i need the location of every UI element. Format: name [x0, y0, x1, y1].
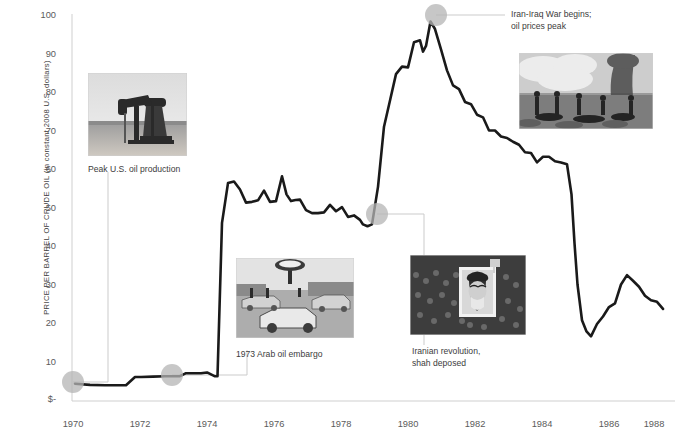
annotation-peak-us-oil-production: Peak U.S. oil production [88, 163, 238, 175]
leader-peak-us-oil-production [73, 172, 108, 382]
war-smoke-photo [519, 53, 653, 129]
marker-arab-oil-embargo[interactable] [161, 364, 183, 386]
annotation-iranian-revolution: Iranian revolution, shah deposed [412, 345, 562, 370]
iranian-crowd-khomeini-photo [410, 255, 526, 335]
oil-price-chart: PRICE PER BARREL OF CRUDE OIL (in consta… [0, 0, 679, 444]
marker-iranian-revolution[interactable] [366, 203, 388, 225]
oil-pumpjack-photo [88, 73, 187, 156]
gas-station-queue-photo [236, 258, 354, 338]
marker-iran-iraq-war[interactable] [425, 4, 447, 26]
annotation-arab-oil-embargo: 1973 Arab oil embargo [236, 348, 386, 360]
marker-peak-us-oil-production[interactable] [62, 371, 84, 393]
annotation-iran-iraq-war: Iran-Iraq War begins; oil prices peak [511, 8, 671, 33]
